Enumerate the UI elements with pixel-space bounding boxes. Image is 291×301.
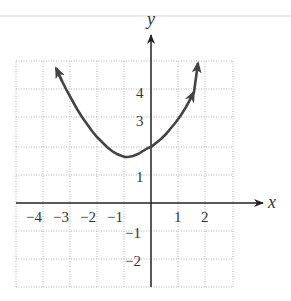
x-tick: −2	[80, 209, 96, 225]
x-tick: 1	[174, 209, 182, 225]
y-tick: −1	[125, 225, 141, 241]
y-tick: −2	[125, 253, 141, 269]
parabola	[57, 71, 194, 157]
parabola-left-end	[56, 68, 62, 81]
x-tick: −4	[26, 209, 42, 225]
x-tick: 2	[201, 209, 209, 225]
x-axis-label: x	[267, 192, 276, 212]
x-tick: −3	[53, 209, 69, 225]
y-axis-label: y	[145, 9, 155, 29]
y-tick: 1	[136, 169, 144, 185]
y-tick: 3	[136, 113, 144, 129]
x-tick: −1	[107, 209, 123, 225]
y-tick: 4	[136, 85, 144, 101]
graph: y x −4 −3 −2 −1 1 2 4 3 1 −1 −2	[0, 0, 291, 301]
parabola-right-end	[191, 63, 198, 98]
